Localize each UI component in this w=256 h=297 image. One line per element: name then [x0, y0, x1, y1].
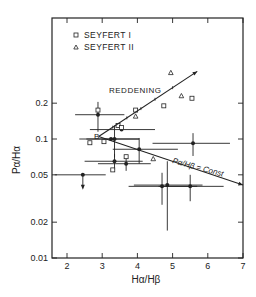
filled-point — [113, 137, 117, 141]
seyfert-1-square-marker — [111, 168, 115, 172]
plot-border — [52, 18, 243, 258]
filled-point — [81, 173, 85, 177]
x-tick-label: 4 — [135, 261, 140, 271]
upper-limit-arrow-icon — [81, 185, 85, 190]
seyfert-2-triangle-marker — [169, 70, 174, 74]
y-tick-label: 0.01 — [30, 253, 48, 263]
filled-point — [113, 159, 117, 163]
plot-frame — [52, 18, 243, 258]
y-tick-label: 0.1 — [35, 134, 48, 144]
const-ratio-label: Pα/Hβ = Const — [171, 156, 225, 178]
chart: 2345670.010.020.050.10.2 REDDENINGPα/Hβ … — [0, 0, 256, 297]
reddening-line — [99, 71, 198, 136]
seyfert-1-square-marker — [96, 108, 100, 112]
x-tick-label: 6 — [205, 261, 210, 271]
legend-seyfert-1-label: SEYFERT I — [84, 30, 131, 40]
axis-ticks: 2345670.010.020.050.10.2 — [30, 18, 245, 271]
reddening-arrowhead-icon — [192, 71, 197, 75]
filled-point — [191, 141, 195, 145]
filled-point — [96, 113, 100, 117]
seyfert-1-square-marker — [88, 141, 92, 145]
seyfert-1-square-marker — [190, 96, 194, 100]
y-tick-label: 0.05 — [30, 170, 48, 180]
seyfert-2-triangle-marker — [133, 114, 138, 118]
y-tick-label: 0.02 — [30, 217, 48, 227]
seyfert-1-square-marker — [102, 140, 106, 144]
y-axis-label: Pα/Hα — [11, 146, 22, 174]
annotations: REDDENINGPα/Hβ = ConstB — [94, 71, 243, 185]
filled-point — [124, 162, 128, 166]
reddening-label: REDDENING — [109, 86, 162, 95]
legend-triangle-icon — [74, 45, 78, 49]
seyfert-2-triangle-marker — [179, 93, 184, 97]
seyfert-1-square-marker — [162, 104, 166, 108]
x-tick-label: 5 — [170, 261, 175, 271]
legend-seyfert-2-label: SEYFERT II — [84, 42, 134, 52]
x-axis-label: Hα/Hβ — [132, 274, 161, 285]
point-b-label: B — [94, 132, 99, 141]
x-tick-label: 2 — [64, 261, 69, 271]
seyfert-1-square-marker — [124, 155, 128, 159]
legend-square-icon — [74, 33, 78, 37]
legend: SEYFERT ISEYFERT II — [74, 30, 134, 52]
filled-point — [188, 184, 192, 188]
const-ratio-arrowhead-icon — [238, 182, 243, 186]
x-tick-label: 7 — [240, 261, 245, 271]
x-tick-label: 3 — [100, 261, 105, 271]
seyfert-1-square-marker — [120, 125, 124, 129]
seyfert-2-triangle-marker — [151, 156, 156, 160]
y-tick-label: 0.2 — [35, 98, 48, 108]
